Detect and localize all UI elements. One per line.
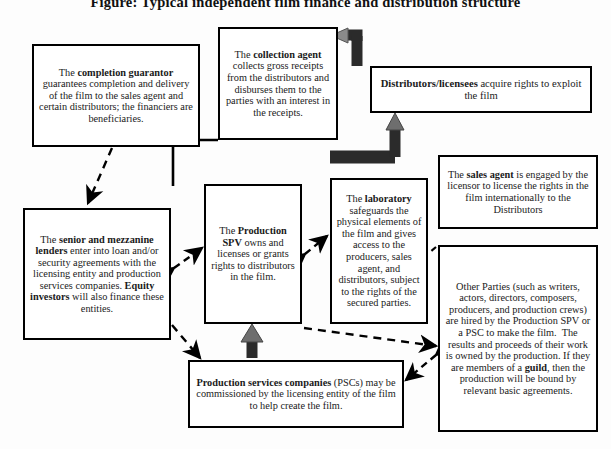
sales-agent-text: The sales agent is engaged by the licens… xyxy=(444,169,592,215)
connector-psc-to-other-parties xyxy=(406,355,436,380)
laboratory-box: The laboratory safeguards the physical e… xyxy=(330,178,428,324)
collection-agent-text: The collection agent collects gross rece… xyxy=(224,49,332,118)
completion-guarantor-box: The completion guarantor guarantees comp… xyxy=(32,44,200,147)
production-spv-box: The Production SPV owns and licenses or … xyxy=(204,184,302,324)
completion-guarantor-text: The completion guarantor guarantees comp… xyxy=(38,67,194,125)
senior-mezzanine-lenders-text: The senior and mezzanine lenders enter i… xyxy=(29,234,165,315)
other-parties-box: Other Parties (such as writers, actors, … xyxy=(438,245,598,432)
connector-spv-to-laboratory xyxy=(305,236,327,254)
other-parties-text: Other Parties (such as writers, actors, … xyxy=(444,281,592,396)
production-spv-text: The Production SPV owns and licenses or … xyxy=(210,225,296,283)
connector-guarantor-to-lenders xyxy=(88,148,112,203)
laboratory-text: The laboratory safeguards the physical e… xyxy=(336,193,422,308)
production-services-companies-box: Production services companies (PSCs) may… xyxy=(188,360,404,428)
connector-lenders-to-spv xyxy=(174,248,202,268)
senior-mezzanine-lenders-box: The senior and mezzanine lenders enter i… xyxy=(23,208,171,340)
connector-spv-to-other-parties xyxy=(304,328,436,346)
collection-agent-box: The collection agent collects gross rece… xyxy=(218,27,338,140)
connector-psc-to-spv xyxy=(241,324,263,358)
diagram-title: Figure: Typical independent film finance… xyxy=(0,0,611,11)
connector-spv-to-distributors xyxy=(330,113,404,157)
production-services-companies-text: Production services companies (PSCs) may… xyxy=(194,377,398,412)
diagram-canvas: Figure: Typical independent film finance… xyxy=(0,0,611,449)
sales-agent-box: The sales agent is engaged by the licens… xyxy=(438,155,598,229)
distributors-licensees-text: Distributors/licensees acquire rights to… xyxy=(376,78,586,102)
distributors-licensees-box: Distributors/licensees acquire rights to… xyxy=(370,66,592,113)
connector-sales-agent-to-spv xyxy=(430,247,436,252)
connector-lenders-to-psc xyxy=(172,325,200,358)
